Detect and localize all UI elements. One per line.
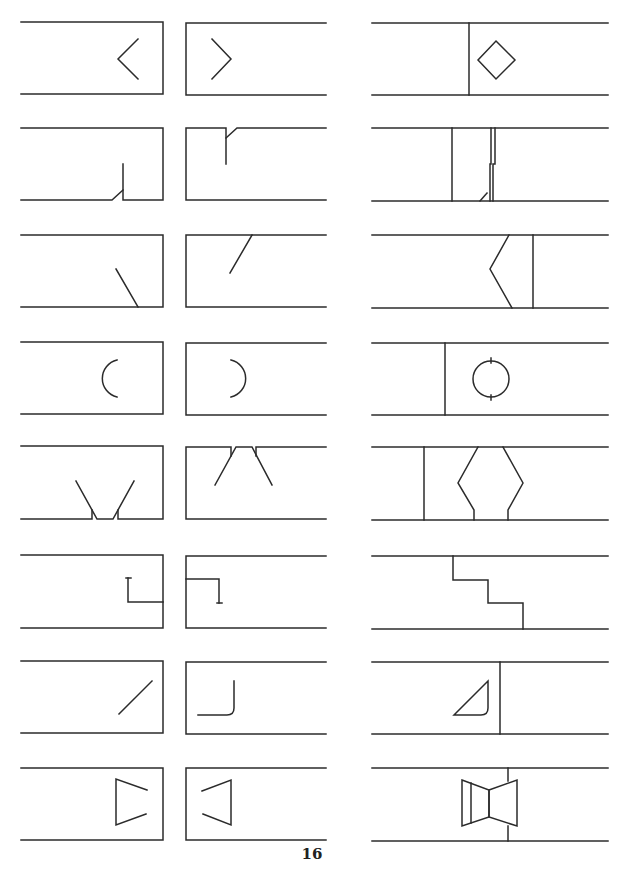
duct-end-top-notch-icon [186, 128, 326, 200]
duct-triangle-vane-icon [372, 662, 608, 734]
duct-end-l-hook-right-icon [186, 556, 326, 628]
duct-end-chevron-right-icon [186, 23, 326, 95]
duct-end-trapezoid-open-left-icon [186, 768, 326, 840]
duct-end-trapezoid-open-right-icon [21, 768, 163, 840]
duct-end-bottom-notch-icon [21, 128, 163, 200]
duct-angled-transition-icon [372, 235, 608, 308]
duct-end-rounded-corner-icon [186, 662, 326, 734]
duct-hexagon-fitting-icon [372, 447, 608, 520]
symbol-sheet [0, 0, 622, 870]
duct-bowtie-fitting-icon [372, 768, 608, 841]
duct-joint-offset-icon [372, 128, 608, 201]
duct-end-chevron-left-icon [21, 22, 163, 94]
duct-end-v-bottom-icon [21, 446, 163, 519]
duct-end-arc-left-icon [21, 342, 163, 414]
duct-end-slash-icon [21, 661, 163, 733]
page-number: 16 [297, 845, 327, 863]
duct-end-diagonal-up-icon [186, 235, 326, 307]
duct-end-arc-right-icon [186, 343, 326, 415]
duct-stepped-joint-icon [372, 556, 608, 629]
duct-end-diagonal-down-icon [21, 235, 163, 307]
duct-circle-damper-icon [372, 343, 608, 415]
duct-diamond-damper-icon [372, 23, 608, 95]
duct-end-v-top-icon [186, 447, 326, 519]
duct-end-l-hook-left-icon [21, 555, 163, 628]
